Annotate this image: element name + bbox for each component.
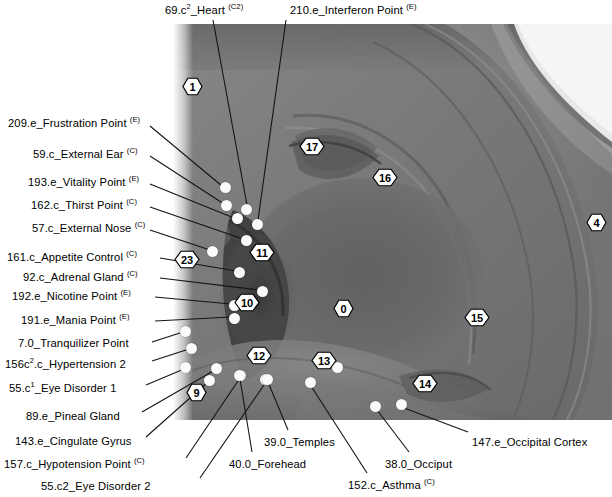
point-label-forehead: 40.0_Forehead — [229, 459, 306, 470]
acupoint-dot-forehead — [234, 370, 245, 381]
point-label-temples: 39.0_Temples — [264, 437, 335, 448]
zone-marker-15: 15 — [464, 307, 490, 328]
point-label-pineal-gland: 89.e_Pineal Gland — [26, 411, 120, 422]
point-label-adrenal-gland: 92.c_Adrenal Gland (C) — [23, 272, 138, 283]
zone-marker-11: 11 — [249, 242, 275, 263]
point-label-eye-disorder-1: 55.c1_Eye Disorder 1 — [9, 383, 116, 394]
point-label-occiput: 38.0_Occiput — [385, 459, 452, 470]
zone-marker-label: 0 — [340, 302, 346, 314]
zone-marker-17: 17 — [299, 136, 325, 157]
acupoint-dot-eye1 — [180, 362, 191, 373]
point-label-frustration: 209.e_Frustration Point (E) — [8, 118, 140, 129]
acupoint-dot-external-nose — [207, 246, 218, 257]
point-label-vitality: 193.e_Vitality Point (E) — [28, 177, 139, 188]
acupoint-dot-appetite — [234, 267, 245, 278]
point-label-nicotine: 192.e_Nicotine Point (E) — [12, 291, 131, 302]
acupoint-dot-temples — [262, 374, 273, 385]
point-label-mania: 191.e_Mania Point (E) — [21, 315, 130, 326]
acupoint-dot-heart — [241, 204, 252, 215]
zone-marker-9: 9 — [186, 382, 207, 403]
point-label-external-ear: 59.c_External Ear (C) — [33, 149, 138, 160]
figure-canvas: 69.c2_Heart (C2)210.e_Interferon Point (… — [0, 0, 612, 497]
acupoint-dot-vitality — [232, 213, 243, 224]
zone-marker-label: 9 — [193, 386, 199, 398]
zone-marker-12: 12 — [246, 345, 272, 366]
point-label-hypertension-2: 156c2.c_Hypertension 2 — [5, 359, 126, 370]
point-label-cingulate-gyrus: 143.e_Cingulate Gyrus — [15, 436, 132, 447]
zone-marker-label: 23 — [181, 253, 193, 265]
zone-marker-13: 13 — [311, 350, 337, 371]
zone-marker-1: 1 — [182, 76, 203, 97]
zone-marker-label: 11 — [256, 246, 268, 258]
acupoint-dot-external-ear — [221, 200, 232, 211]
acupoint-dot-frustration — [220, 182, 231, 193]
point-label-external-nose: 57.c_External Nose (C) — [32, 223, 146, 234]
zone-marker-label: 17 — [306, 140, 318, 152]
point-label-asthma: 152.c_Asthma (C) — [348, 480, 435, 491]
zone-marker-23: 23 — [174, 249, 200, 270]
acupoint-dot-mania — [229, 313, 240, 324]
point-label-interferon: 210.e_Interferon Point (E) — [290, 5, 417, 16]
zone-marker-label: 13 — [318, 354, 330, 366]
acupoint-dot-occiput — [370, 401, 381, 412]
zone-marker-16: 16 — [372, 167, 398, 188]
zone-marker-label: 10 — [241, 296, 253, 308]
acupoint-dot-hypertension2 — [186, 343, 197, 354]
zone-marker-label: 15 — [471, 311, 483, 323]
zone-marker-label: 1 — [189, 80, 195, 92]
point-label-thirst: 162.c_Thirst Point (C) — [31, 200, 137, 211]
zone-marker-0: 0 — [333, 298, 354, 319]
point-label-eye-disorder-2: 55.c2_Eye Disorder 2 — [41, 481, 151, 492]
zone-marker-4: 4 — [586, 212, 607, 233]
zone-marker-label: 12 — [253, 349, 265, 361]
acupoint-dot-tranquilizer — [180, 326, 191, 337]
acupoint-dot-interferon — [252, 219, 263, 230]
point-label-appetite-control: 161.c_Appetite Control (C) — [7, 252, 137, 263]
zone-marker-10: 10 — [234, 292, 260, 313]
point-label-heart: 69.c2_Heart (C2) — [165, 5, 243, 16]
acupoint-dot-occipital-cortex — [396, 399, 407, 410]
point-label-occipital-cortex: 147.e_Occipital Cortex — [472, 437, 587, 448]
point-label-hypotension: 157.c_Hypotension Point (C) — [4, 459, 145, 470]
acupoint-dot-asthma — [305, 377, 316, 388]
point-label-tranquilizer: 7.0_Tranquilizer Point — [18, 338, 129, 349]
zone-marker-label: 14 — [419, 377, 432, 389]
zone-marker-label: 16 — [379, 171, 391, 183]
acupoint-dot-pineal — [211, 363, 222, 374]
zone-marker-14: 14 — [412, 373, 438, 394]
zone-marker-label: 4 — [593, 216, 600, 228]
